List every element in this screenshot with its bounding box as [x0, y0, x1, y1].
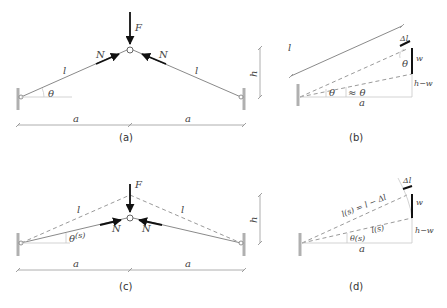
angle-base-label: θ [329, 87, 335, 98]
bar-label-right: l [181, 204, 184, 215]
angle-label: θ(s) [350, 234, 365, 243]
span-label-left: a [73, 113, 79, 124]
truss-diagram: F N N l l θ a a h (a) l Δl θ θ ≈ θ w h−w… [0, 0, 447, 308]
original-right-bar [130, 195, 241, 243]
caption-a: (a) [119, 132, 133, 143]
w-label: w [416, 198, 423, 207]
axial-label-right: N [158, 49, 169, 60]
h-minus-w-label: h−w [414, 79, 433, 88]
undeformed-bar-length [291, 26, 402, 76]
force-label: F [134, 22, 143, 33]
caption-d: (d) [349, 281, 363, 292]
angle-label: θ(s) [69, 231, 85, 244]
force-label: F [134, 179, 143, 190]
angle-arc [42, 88, 44, 97]
apex-hinge [127, 215, 133, 221]
axial-label-left: N [95, 49, 106, 60]
length-upper-label: l(s) = l − Δl [340, 193, 388, 219]
span-label-right: a [185, 258, 191, 269]
height-label: h [248, 217, 259, 223]
panel-b: l Δl θ θ ≈ θ w h−w a (b) [288, 24, 433, 143]
caption-b: (b) [349, 132, 363, 143]
right-hinge [239, 95, 243, 99]
h-minus-w-label: h−w [415, 226, 434, 235]
bar-label-left: l [63, 65, 66, 76]
axial-label-left: N [111, 223, 122, 234]
delta-l-label: Δl [399, 34, 409, 43]
length-lower-label: l(s) [371, 223, 385, 234]
span-label: a [359, 97, 365, 108]
angle-label: θ [48, 88, 54, 99]
length-label: l [288, 42, 291, 53]
bar-label-left: l [77, 204, 80, 215]
span-label: a [359, 243, 365, 254]
caption-c: (c) [119, 281, 132, 292]
delta-l-label: Δl [402, 176, 412, 185]
panel-d: Δl l(s) = l − Δl l(s) θ(s) w h−w a (d) [300, 176, 434, 292]
panel-a: F N N l l θ a a h (a) [16, 12, 262, 143]
span-label-left: a [73, 258, 79, 269]
delta-l-segment [403, 186, 412, 189]
axial-label-right: N [141, 223, 152, 234]
span-label-right: a [185, 113, 191, 124]
w-label: w [416, 54, 423, 63]
apex-hinge [127, 47, 133, 53]
panel-c: F N N l l θ(s) a a h (c) [16, 179, 262, 292]
bar-label-right: l [195, 65, 198, 76]
height-label: h [248, 71, 259, 77]
angle-top-label: θ [402, 58, 408, 69]
